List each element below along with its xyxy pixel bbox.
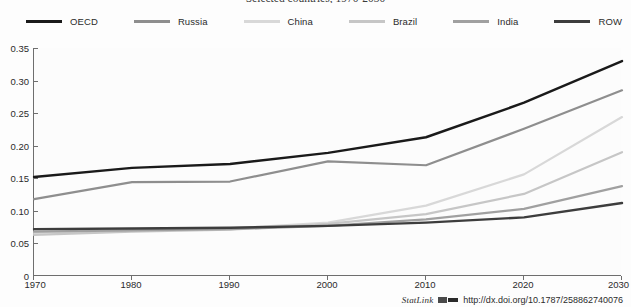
legend-swatch-icon	[26, 20, 62, 23]
legend-label: Brazil	[393, 16, 417, 27]
y-tick-mark	[33, 81, 38, 82]
y-axis: 00.050.100.150.200.250.300.35	[0, 48, 29, 276]
legend-label: China	[288, 16, 313, 27]
legend-item-china[interactable]: China	[244, 16, 313, 27]
legend-item-row[interactable]: ROW	[554, 16, 622, 27]
chart-legend: OECDRussiaChinaBrazilIndiaROW	[26, 13, 622, 29]
plot-area	[33, 48, 621, 276]
legend-item-oecd[interactable]: OECD	[26, 16, 98, 27]
legend-item-brazil[interactable]: Brazil	[349, 16, 417, 27]
y-tick-mark	[33, 48, 38, 49]
legend-item-india[interactable]: India	[453, 16, 518, 27]
series-line-oecd	[34, 61, 622, 177]
y-tick-label: 0.20	[3, 140, 29, 151]
statlink-label: StatLink	[402, 295, 434, 305]
statlink-footer: StatLink http://dx.doi.org/10.1787/25886…	[402, 295, 623, 305]
legend-label: OECD	[70, 16, 98, 27]
y-tick-label: 0.25	[3, 108, 29, 119]
x-tick-label: 2010	[414, 279, 435, 290]
x-tick-label: 1990	[218, 279, 239, 290]
legend-swatch-icon	[134, 20, 170, 23]
statlink-url[interactable]: http://dx.doi.org/10.1787/258862740076	[463, 295, 623, 305]
chart-title: Selected countries, 1970-2030	[0, 0, 631, 3]
legend-swatch-icon	[244, 20, 280, 23]
legend-swatch-icon	[453, 20, 489, 23]
legend-swatch-icon	[554, 20, 590, 23]
x-tick-label: 2000	[316, 279, 337, 290]
series-line-russia	[34, 90, 622, 199]
y-tick-label: 0.35	[3, 43, 29, 54]
y-tick-mark	[33, 178, 38, 179]
legend-label: ROW	[598, 16, 622, 27]
y-tick-mark	[33, 243, 38, 244]
legend-item-russia[interactable]: Russia	[134, 16, 208, 27]
y-tick-mark	[33, 146, 38, 147]
chart-figure: Selected countries, 1970-2030 OECDRussia…	[0, 0, 631, 307]
y-tick-label: 0.15	[3, 173, 29, 184]
x-tick-label: 1970	[25, 279, 46, 290]
legend-label: India	[497, 16, 518, 27]
legend-label: Russia	[178, 16, 208, 27]
x-tick-label: 2020	[512, 279, 533, 290]
y-tick-label: 0.10	[3, 205, 29, 216]
x-tick-label: 1980	[120, 279, 141, 290]
legend-swatch-icon	[349, 20, 385, 23]
x-tick-label: 2030	[608, 279, 629, 290]
y-tick-label: 0.30	[3, 75, 29, 86]
y-tick-mark	[33, 211, 38, 212]
plot-lines	[34, 48, 622, 276]
statlink-icon	[438, 296, 458, 304]
x-axis: 1970198019902000201020202030	[33, 279, 621, 293]
y-tick-label: 0.05	[3, 238, 29, 249]
y-tick-mark	[33, 113, 38, 114]
